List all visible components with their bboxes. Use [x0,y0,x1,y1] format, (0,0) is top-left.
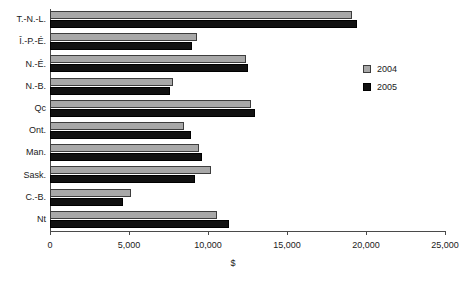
bar-2005-N.-É.[interactable] [50,64,248,72]
category-label-N.-É.: N.-É. [0,60,46,69]
bar-2004-Sask.[interactable] [50,166,211,174]
bar-2005-T.-N.-L.[interactable] [50,20,357,28]
x-tick-label-20,000: 20,000 [352,240,380,250]
x-tick-0 [50,231,51,235]
bar-2005-Ont.[interactable] [50,131,191,139]
bar-2004-N.-É.[interactable] [50,55,246,63]
x-axis-title: $ [0,258,466,268]
x-tick-label-10,000: 10,000 [194,240,222,250]
bar-2005-Î.-P.-É.[interactable] [50,42,192,50]
bar-2004-Nt[interactable] [50,211,217,219]
bar-2004-T.-N.-L.[interactable] [50,11,352,19]
x-tick-25,000 [445,231,446,235]
x-axis-line [50,231,446,232]
legend-item-2004[interactable]: 2004 [363,62,397,76]
category-axis-labels: T.-N.-L.Î.-P.-É.N.-É.N.-B.QcOnt.Man.Sask… [0,9,46,231]
x-tick-label-25,000: 25,000 [431,240,459,250]
bar-2005-C.-B.[interactable] [50,198,123,206]
x-tick-15,000 [287,231,288,235]
category-label-Man.: Man. [0,148,46,157]
category-label-Sask.: Sask. [0,171,46,180]
legend-swatch-icon-2005 [363,83,371,91]
bar-2004-Qc[interactable] [50,100,251,108]
category-label-Î.-P.-É.: Î.-P.-É. [0,37,46,46]
category-label-C.-B.: C.-B. [0,193,46,202]
category-label-Qc: Qc [0,104,46,113]
category-label-Nt: Nt [0,215,46,224]
bar-2005-Nt[interactable] [50,220,229,228]
bar-2005-Qc[interactable] [50,109,255,117]
x-tick-5,000 [129,231,130,235]
category-label-Ont.: Ont. [0,126,46,135]
bar-2005-Sask.[interactable] [50,175,195,183]
category-label-T.-N.-L.: T.-N.-L. [0,15,46,24]
bar-2004-Î.-P.-É.[interactable] [50,33,197,41]
bar-2004-Man.[interactable] [50,144,199,152]
legend-swatch-icon-2004 [363,65,371,73]
bar-2004-Ont.[interactable] [50,122,184,130]
legend-label-2004: 2004 [377,65,397,74]
bar-2004-N.-B.[interactable] [50,78,173,86]
x-tick-label-15,000: 15,000 [273,240,301,250]
x-tick-20,000 [366,231,367,235]
x-tick-10,000 [208,231,209,235]
legend-item-2005[interactable]: 2005 [363,80,397,94]
plot-area [50,9,445,231]
category-label-N.-B.: N.-B. [0,82,46,91]
legend: 2004 2005 [363,62,397,98]
bar-2005-Man.[interactable] [50,153,202,161]
bar-2004-C.-B.[interactable] [50,189,131,197]
x-tick-label-0: 0 [47,240,52,250]
bar-chart: T.-N.-L.Î.-P.-É.N.-É.N.-B.QcOnt.Man.Sask… [0,0,466,281]
bar-2005-N.-B.[interactable] [50,87,170,95]
x-tick-label-5,000: 5,000 [118,240,141,250]
legend-label-2005: 2005 [377,83,397,92]
